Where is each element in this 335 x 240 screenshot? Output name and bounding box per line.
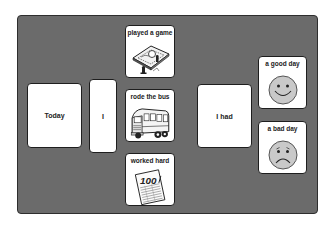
card-label: a bad day [268, 126, 298, 133]
card-rode-the-bus[interactable]: rode the bus [125, 89, 175, 142]
sad-face-icon [267, 139, 299, 171]
card-label: a good day [265, 61, 299, 68]
card-label: rode the bus [130, 94, 169, 101]
card-label: I [102, 113, 104, 120]
card-label: played a game [128, 30, 173, 37]
card-i-had[interactable]: I had [197, 84, 252, 148]
card-today[interactable]: Today [27, 83, 82, 148]
card-worked-hard[interactable]: worked hard 100 [125, 153, 175, 206]
card-i[interactable]: I [89, 79, 117, 153]
card-a-good-day[interactable]: a good day [258, 56, 307, 109]
test-paper-100-icon: 100 [130, 168, 170, 206]
school-bus-icon [128, 104, 172, 142]
card-a-bad-day[interactable]: a bad day [258, 121, 307, 174]
svg-text:100: 100 [140, 174, 157, 185]
card-label: Today [44, 112, 64, 119]
card-label: I had [216, 113, 232, 120]
smiley-face-icon [267, 74, 299, 106]
card-played-a-game[interactable]: played a game [125, 25, 175, 78]
card-label: worked hard [131, 158, 170, 165]
board-game-icon [129, 40, 171, 76]
